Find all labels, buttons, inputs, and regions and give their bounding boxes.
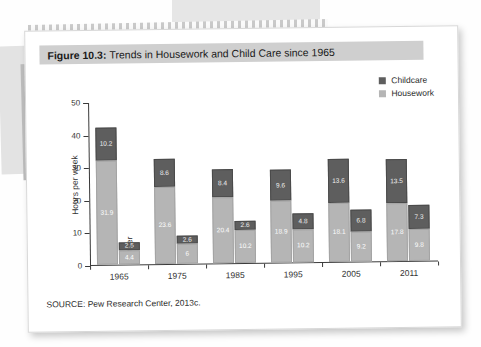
bar-value-label: 23.6 bbox=[159, 222, 172, 229]
y-axis-tick bbox=[85, 233, 90, 234]
bar-value-label: 7.3 bbox=[414, 214, 423, 221]
bar-value-label: 18.1 bbox=[333, 229, 346, 236]
y-axis-tick-label: 0 bbox=[78, 261, 83, 270]
bar-segment-housework: 10.2 bbox=[235, 230, 256, 264]
x-axis-tick-label: 1965 bbox=[110, 271, 129, 281]
stacked-bar-mother-1975[interactable]: Mother8.623.6 bbox=[154, 159, 176, 264]
y-axis-tick-label: 50 bbox=[71, 98, 80, 107]
bar-value-label: 8.4 bbox=[218, 180, 227, 187]
y-axis-tick-label: 10 bbox=[73, 229, 82, 238]
bar-value-label: 8.6 bbox=[160, 170, 169, 177]
bar-segment-housework: 4.4 bbox=[119, 250, 140, 265]
bar-segment-childcare: 10.2 bbox=[95, 127, 116, 161]
stacked-bar-mother-2011[interactable]: Mother13.517.8 bbox=[386, 159, 408, 261]
stacked-bar-mother-1995[interactable]: Mother9.618.9 bbox=[270, 170, 292, 263]
legend-label: Housework bbox=[391, 88, 434, 99]
x-axis-tick-label: 2011 bbox=[400, 268, 418, 278]
stacked-bar-father-1985[interactable]: Father2.610.2 bbox=[235, 221, 257, 263]
bar-value-label: 17.8 bbox=[391, 229, 404, 236]
stacked-bar-father-1965[interactable]: Father2.54.4 bbox=[119, 242, 140, 265]
bar-group-2005: Mother13.618.1Father6.89.2 bbox=[327, 98, 372, 262]
bar-value-label: 2.6 bbox=[183, 237, 192, 244]
x-axis-tick bbox=[148, 265, 149, 269]
bar-segment-housework: 9.2 bbox=[351, 231, 372, 261]
bar-value-label: 10.2 bbox=[239, 243, 252, 250]
y-axis-tick-label: 20 bbox=[72, 196, 81, 205]
bar-segment-childcare: 2.5 bbox=[119, 242, 140, 250]
bar-value-label: 4.8 bbox=[298, 218, 307, 225]
figure-number: Figure 10.3: bbox=[47, 48, 106, 61]
stacked-bar-mother-2005[interactable]: Mother13.618.1 bbox=[328, 158, 350, 262]
bar-value-label: 9.2 bbox=[357, 243, 366, 250]
stacked-bar-mother-1985[interactable]: Mother8.420.4 bbox=[212, 169, 234, 263]
bar-value-label: 10.2 bbox=[297, 242, 310, 249]
bar-segment-childcare: 8.4 bbox=[212, 169, 233, 197]
bar-segment-childcare: 2.6 bbox=[235, 221, 256, 230]
figure-card: Figure 10.3: Trends in Housework and Chi… bbox=[24, 25, 462, 332]
bar-segment-childcare: 9.6 bbox=[270, 170, 291, 202]
y-axis-line bbox=[88, 103, 91, 266]
x-axis-tick bbox=[206, 264, 207, 268]
bar-value-label: 6.8 bbox=[356, 217, 365, 224]
bar-segment-housework: 6 bbox=[177, 244, 198, 264]
bar-group-1985: Mother8.420.4Father2.610.2 bbox=[211, 100, 256, 264]
bar-segment-housework: 31.9 bbox=[96, 161, 118, 265]
legend-item-housework: Housework bbox=[379, 88, 434, 99]
y-axis-tick bbox=[83, 103, 88, 104]
y-axis-tick bbox=[84, 201, 89, 202]
bar-segment-childcare: 8.6 bbox=[154, 159, 175, 187]
x-axis-tick bbox=[90, 266, 91, 270]
bar-group-1995: Mother9.618.9Father4.810.2 bbox=[269, 99, 314, 263]
y-axis-tick bbox=[83, 135, 88, 136]
x-axis-tick bbox=[380, 262, 381, 266]
figure-caption-bar: Figure 10.3: Trends in Housework and Chi… bbox=[39, 41, 423, 65]
x-axis-tick-label: 1985 bbox=[226, 270, 245, 280]
bar-value-label: 10.2 bbox=[100, 141, 113, 148]
bar-value-label: 2.5 bbox=[125, 243, 134, 250]
bar-group-1975: Mother8.623.6Father2.66 bbox=[153, 101, 198, 265]
legend-swatch-icon bbox=[379, 90, 386, 97]
bar-segment-housework: 10.2 bbox=[293, 229, 314, 263]
stacked-bar-father-1995[interactable]: Father4.810.2 bbox=[292, 213, 314, 262]
x-axis-tick-label: 1995 bbox=[284, 269, 303, 279]
legend-swatch-icon bbox=[379, 77, 386, 84]
bar-segment-childcare: 13.5 bbox=[386, 159, 408, 203]
stacked-bar-mother-1965[interactable]: Mother10.231.9 bbox=[95, 127, 118, 264]
x-axis-tick-label: 1975 bbox=[168, 271, 187, 281]
stacked-bar-father-2011[interactable]: Father7.39.8 bbox=[408, 205, 430, 261]
legend-item-childcare: Childcare bbox=[379, 75, 434, 86]
stacked-bar-father-1975[interactable]: Father2.66 bbox=[177, 236, 198, 264]
bar-value-label: 9.8 bbox=[415, 242, 424, 249]
figure-caption-text: Trends in Housework and Child Care since… bbox=[109, 45, 335, 60]
bar-segment-housework: 17.8 bbox=[386, 203, 408, 261]
bar-segment-housework: 9.8 bbox=[409, 229, 430, 261]
bar-value-label: 13.5 bbox=[390, 178, 403, 185]
bar-segment-childcare: 13.6 bbox=[328, 158, 350, 203]
x-axis-tick-label: 2005 bbox=[342, 269, 361, 279]
bar-segment-housework: 18.9 bbox=[270, 201, 292, 263]
bar-segment-housework: 23.6 bbox=[154, 187, 176, 264]
bar-value-label: 18.9 bbox=[275, 228, 288, 235]
x-axis-tick bbox=[438, 262, 439, 266]
legend-label: Childcare bbox=[391, 75, 427, 85]
x-axis-tick bbox=[322, 263, 323, 267]
bar-group-1965: Mother10.231.9Father2.54.4 bbox=[95, 101, 140, 265]
bar-segment-childcare: 7.3 bbox=[408, 205, 429, 229]
bar-value-label: 13.6 bbox=[332, 177, 345, 184]
bar-segment-housework: 18.1 bbox=[328, 203, 350, 262]
bar-group-2011: Mother13.517.8Father7.39.8 bbox=[385, 98, 430, 262]
bar-segment-childcare: 6.8 bbox=[350, 209, 371, 231]
y-axis-tick-label: 40 bbox=[71, 131, 80, 140]
bar-value-label: 9.6 bbox=[276, 182, 285, 189]
stacked-bar-father-2005[interactable]: Father6.89.2 bbox=[350, 209, 372, 261]
bar-segment-childcare: 4.8 bbox=[292, 213, 313, 229]
y-axis-tick bbox=[84, 168, 89, 169]
bar-value-label: 2.6 bbox=[240, 222, 249, 229]
bar-segment-childcare: 2.6 bbox=[177, 236, 198, 245]
x-axis-tick bbox=[264, 264, 265, 268]
bar-segment-housework: 20.4 bbox=[212, 197, 234, 264]
figure-source: SOURCE: Pew Research Center, 2013c. bbox=[46, 298, 200, 310]
chart-legend: ChildcareHousework bbox=[379, 75, 434, 99]
bar-value-label: 31.9 bbox=[101, 209, 114, 216]
chart-plot-area: Hours per week 01020304050Mother10.231.9… bbox=[88, 99, 438, 266]
